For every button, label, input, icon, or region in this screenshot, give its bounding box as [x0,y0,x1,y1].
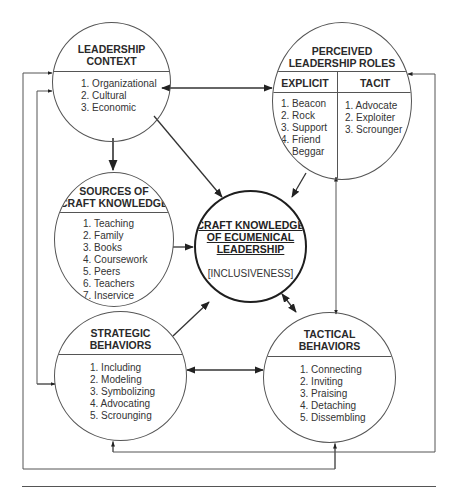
list-item: 2. Cultural [81,90,170,102]
list-item: 2. Inviting [300,376,395,388]
craft-knowledge-center-node: CRAFT KNOWLEDGE OF ECUMENICAL LEADERSHIP… [194,190,307,303]
sources-title-1: SOURCES OF [55,185,173,197]
sources-divider [55,212,173,213]
list-item: 6. Teachers [83,278,173,290]
center-title-1: CRAFT KNOWLEDGE [196,219,305,231]
center-title-3: LEADERSHIP [196,243,305,255]
list-item: 3. Scrounger [345,124,402,136]
list-item: 1. Connecting [300,364,395,376]
list-item: 4. Advocating [90,398,186,410]
tactical-divider [264,356,395,357]
list-item: 2. Exploiter [345,112,402,124]
list-item: 2. Family [83,230,173,242]
strategic-title-2: BEHAVIORS [55,339,186,351]
list-item: 7. Inservice [83,290,173,302]
tactical-title-1: TACTICAL [264,328,395,340]
perceived-roles-divider-top [273,71,411,72]
list-item: 3. Economic [81,102,170,114]
strategic-list: 1. Including 2. Modeling 3. Symbolizing … [55,362,186,422]
list-item: 3. Books [83,242,173,254]
list-item: 3. Praising [300,388,395,400]
list-item: 1. Beacon [281,98,327,110]
list-item: 5. Scrounging [90,410,186,422]
list-item: 5. Dissembling [300,412,395,424]
list-item: 3. Support [281,122,327,134]
tactical-behaviors-node: TACTICAL BEHAVIORS 1. Connecting 2. Invi… [263,312,396,443]
list-item: 1. Including [90,362,186,374]
leadership-context-title-2: CONTEXT [53,55,170,67]
perceived-roles-title-2: LEADERSHIP ROLES [273,57,411,69]
explicit-header: EXPLICIT [273,77,337,89]
leadership-context-node: LEADERSHIP CONTEXT 1. Organizational 2. … [52,22,171,142]
list-item: 2. Rock [281,110,327,122]
sources-list: 1. Teaching 2. Family 3. Books 4. Course… [55,218,173,302]
list-item: 1. Organizational [81,78,170,90]
center-subtitle: [INCLUSIVENESS] [196,268,305,279]
list-item: 4. Coursework [83,254,173,266]
leadership-context-list: 1. Organizational 2. Cultural 3. Economi… [53,78,170,114]
list-item: 4. Detaching [300,400,395,412]
list-item: 5. Peers [83,266,173,278]
strategic-divider [55,354,186,355]
strategic-behaviors-node: STRATEGIC BEHAVIORS 1. Including 2. Mode… [54,311,187,441]
perceived-roles-node: PERCEIVED LEADERSHIP ROLES EXPLICIT TACI… [272,22,412,180]
explicit-list: 1. Beacon 2. Rock 3. Support 4. Friend 5… [281,98,327,158]
strategic-to-context-feedback [37,91,55,384]
tactical-list: 1. Connecting 2. Inviting 3. Praising 4.… [264,364,395,424]
perceived-roles-divider-bottom [273,92,411,93]
center-tactical-link [282,294,296,312]
tactical-title-2: BEHAVIORS [264,340,395,352]
tacit-header: TACIT [337,77,412,89]
list-item: 2. Modeling [90,374,186,386]
list-item: 1. Advocate [345,100,402,112]
roles-center-link [292,173,306,197]
list-item: 4. Friend [281,134,327,146]
bottom-rule [22,486,436,487]
tacit-list: 1. Advocate 2. Exploiter 3. Scrounger [345,100,402,136]
leadership-context-title-1: LEADERSHIP [53,43,170,55]
perceived-roles-title-1: PERCEIVED [273,45,411,57]
center-title-2: OF ECUMENICAL [196,231,305,243]
list-item: 5. Beggar [281,146,327,158]
list-item: 3. Symbolizing [90,386,186,398]
leadership-context-divider [53,71,170,72]
strategic-title-1: STRATEGIC [55,327,186,339]
list-item: 1. Teaching [83,218,173,230]
sources-node: SOURCES OF CRAFT KNOWLEDGE 1. Teaching 2… [54,172,174,307]
sources-title-2: CRAFT KNOWLEDGE [55,197,173,209]
